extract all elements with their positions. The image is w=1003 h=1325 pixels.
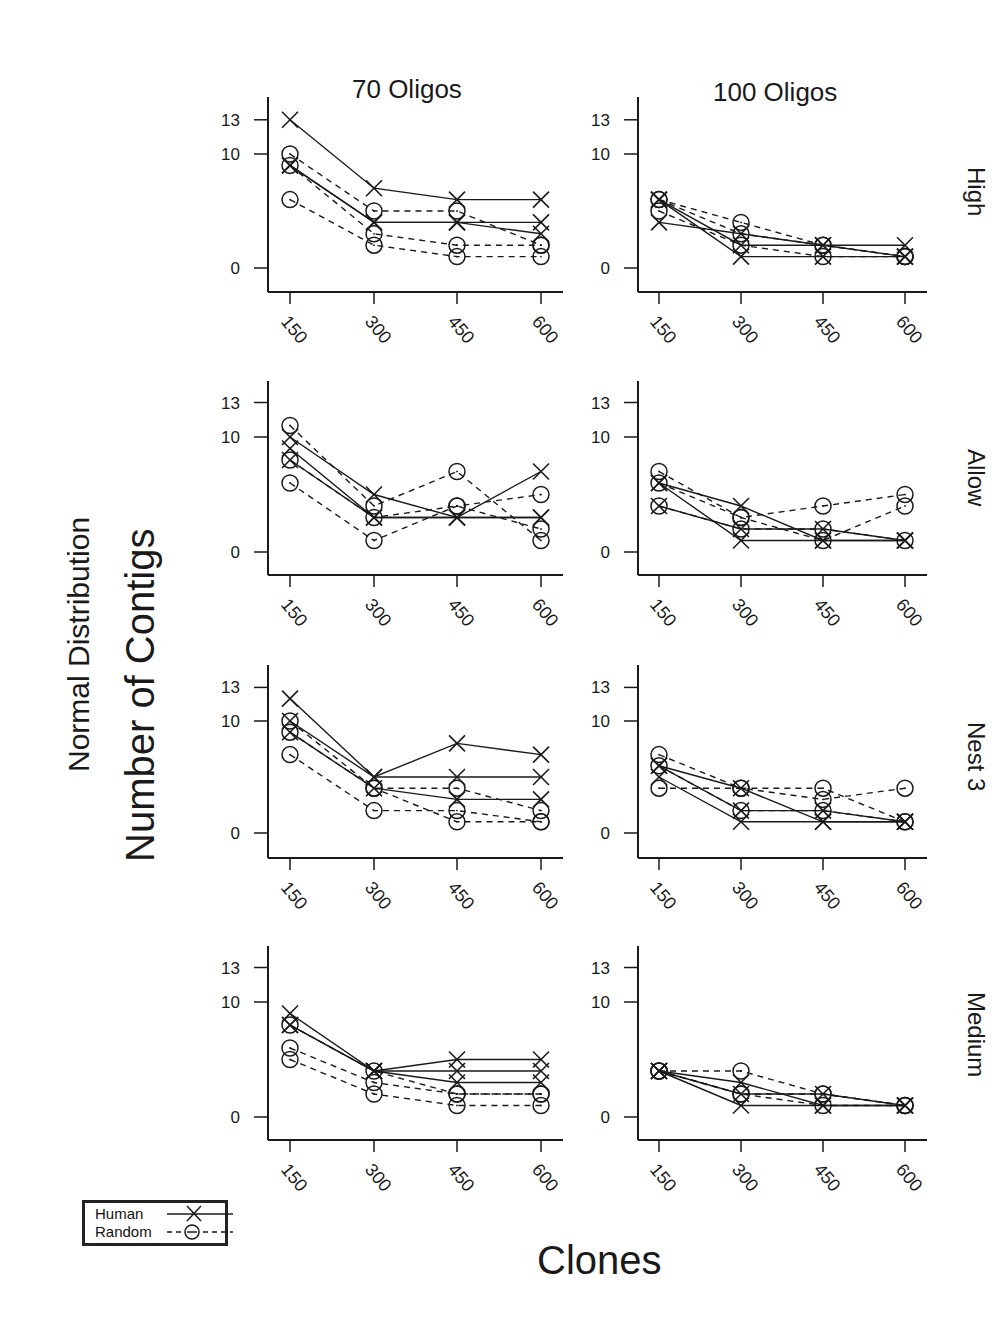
x-tick-label: 300 xyxy=(361,312,396,348)
x-tick-label: 300 xyxy=(728,1160,763,1196)
x-marker-icon xyxy=(167,1205,237,1223)
circle-marker-icon xyxy=(733,226,749,242)
plot-canvas: 0101315030045060001013150300450600010131… xyxy=(0,0,1003,1325)
y-tick-label: 13 xyxy=(221,678,240,697)
x-tick-label: 450 xyxy=(810,878,845,914)
panel-allow-100-oligos: 01013150300450600 xyxy=(591,381,927,631)
circle-marker-icon xyxy=(815,498,831,514)
random-series-line xyxy=(290,755,541,822)
x-marker-icon xyxy=(282,112,298,128)
y-tick-label: 0 xyxy=(231,1108,240,1127)
x-tick-label: 150 xyxy=(277,1160,312,1196)
x-tick-label: 300 xyxy=(728,312,763,348)
y-tick-label: 10 xyxy=(591,428,610,447)
x-tick-label: 300 xyxy=(361,1160,396,1196)
x-tick-label: 600 xyxy=(528,312,563,348)
x-tick-label: 300 xyxy=(728,878,763,914)
circle-marker-icon xyxy=(897,498,913,514)
panel-medium-100-oligos: 01013150300450600 xyxy=(591,946,927,1196)
circle-marker-icon xyxy=(167,1223,237,1241)
x-marker-icon xyxy=(366,180,382,196)
random-series-line xyxy=(659,472,905,518)
x-tick-label: 300 xyxy=(361,595,396,631)
random-series-line xyxy=(290,460,541,529)
legend-item-human: Human xyxy=(95,1205,225,1223)
x-tick-label: 450 xyxy=(444,1160,479,1196)
human-series-line xyxy=(290,449,541,518)
legend-item-random: Random xyxy=(95,1223,225,1241)
panel-nest-3-70-oligos: 01013150300450600 xyxy=(221,665,563,914)
y-tick-label: 0 xyxy=(601,824,610,843)
circle-marker-icon xyxy=(449,814,465,830)
circle-marker-icon xyxy=(449,498,465,514)
y-tick-label: 13 xyxy=(591,959,610,978)
legend-label-human: Human xyxy=(95,1205,143,1222)
x-marker-icon xyxy=(533,747,549,763)
circle-marker-icon xyxy=(449,780,465,796)
x-marker-icon xyxy=(533,464,549,480)
panel-high-70-oligos: 01013150300450600 xyxy=(221,97,563,348)
x-tick-label: 600 xyxy=(528,878,563,914)
legend: Human Random xyxy=(82,1200,228,1246)
x-tick-label: 600 xyxy=(892,312,927,348)
random-series-line xyxy=(659,211,905,257)
figure: 70 Oligos 100 Oligos High Allow Nest 3 M… xyxy=(0,0,1003,1325)
human-series-line xyxy=(290,1025,541,1083)
y-tick-label: 13 xyxy=(591,394,610,413)
human-series-line xyxy=(290,1014,541,1072)
circle-marker-icon xyxy=(282,1017,298,1033)
circle-marker-icon xyxy=(651,498,667,514)
circle-marker-icon xyxy=(533,237,549,253)
x-tick-label: 150 xyxy=(277,878,312,914)
y-tick-label: 10 xyxy=(591,712,610,731)
circle-marker-icon xyxy=(282,192,298,208)
x-tick-label: 150 xyxy=(277,312,312,348)
x-tick-label: 600 xyxy=(528,1160,563,1196)
circle-marker-icon xyxy=(282,724,298,740)
x-tick-label: 300 xyxy=(361,878,396,914)
x-tick-label: 300 xyxy=(728,595,763,631)
x-tick-label: 600 xyxy=(892,595,927,631)
x-tick-label: 450 xyxy=(444,312,479,348)
circle-marker-icon xyxy=(366,203,382,219)
circle-marker-icon xyxy=(651,192,667,208)
human-series-line xyxy=(290,1025,541,1071)
human-series-line xyxy=(290,120,541,200)
x-tick-label: 600 xyxy=(892,878,927,914)
human-series-line xyxy=(290,437,541,518)
y-tick-label: 13 xyxy=(591,678,610,697)
circle-marker-icon xyxy=(533,487,549,503)
y-tick-label: 0 xyxy=(601,1108,610,1127)
x-marker-icon xyxy=(282,691,298,707)
y-tick-label: 0 xyxy=(231,824,240,843)
circle-marker-icon xyxy=(651,475,667,491)
circle-marker-icon xyxy=(282,747,298,763)
circle-marker-icon xyxy=(366,1086,382,1102)
x-tick-label: 450 xyxy=(810,312,845,348)
circle-marker-icon xyxy=(733,780,749,796)
circle-marker-icon xyxy=(366,533,382,549)
y-tick-label: 13 xyxy=(221,959,240,978)
x-tick-label: 450 xyxy=(810,1160,845,1196)
circle-marker-icon xyxy=(282,475,298,491)
y-tick-label: 10 xyxy=(221,712,240,731)
panel-allow-70-oligos: 01013150300450600 xyxy=(221,381,563,631)
x-tick-label: 150 xyxy=(646,595,681,631)
panel-medium-70-oligos: 01013150300450600 xyxy=(221,946,563,1196)
x-tick-label: 150 xyxy=(646,878,681,914)
circle-marker-icon xyxy=(282,1052,298,1068)
x-tick-label: 450 xyxy=(444,878,479,914)
y-tick-label: 0 xyxy=(601,543,610,562)
y-tick-label: 0 xyxy=(231,543,240,562)
circle-marker-icon xyxy=(449,464,465,480)
circle-marker-icon xyxy=(366,803,382,819)
circle-marker-icon xyxy=(651,758,667,774)
circle-marker-icon xyxy=(282,452,298,468)
x-tick-label: 450 xyxy=(810,595,845,631)
circle-marker-icon xyxy=(282,157,298,173)
panel-high-100-oligos: 01013150300450600 xyxy=(591,97,927,348)
circle-marker-icon xyxy=(366,226,382,242)
circle-marker-icon xyxy=(733,1063,749,1079)
x-marker-icon xyxy=(449,735,465,751)
circle-marker-icon xyxy=(897,780,913,796)
